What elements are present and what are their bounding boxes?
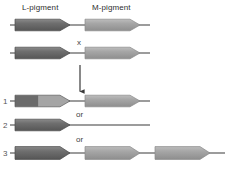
gene-m-pigment-parent1 [85,19,140,31]
gene-crossover-diagram [0,0,234,170]
row-label-1: 1 [3,97,8,106]
header-m-pigment: M-pigment [92,3,131,12]
header-l-pigment: L-pigment [22,3,58,12]
or-separator-1: or [76,110,83,119]
gene-l-pigment-outcome3 [15,147,70,160]
gene-l-pigment-parent2 [15,47,70,59]
gene-m-pigment-second-outcome3 [155,147,210,160]
or-separator-2: or [76,135,83,144]
gene-l-pigment-outcome2 [15,119,70,131]
gene-m-pigment-outcome1 [85,95,140,107]
gene-m-pigment-parent2 [85,47,140,59]
chromosome-outcome-3 [10,147,225,160]
row-label-3: 3 [3,149,8,158]
row-label-2: 2 [3,121,8,130]
gene-m-pigment-first-outcome3 [85,147,140,160]
chromosome-outcome-1 [10,95,150,107]
gene-l-pigment-parent1 [15,19,70,31]
gene-hybrid-l-m-outcome1 [15,95,70,107]
chromosome-outcome-2 [10,119,150,131]
chromosome-parent-2 [10,47,150,59]
chromosome-parent-1 [10,19,150,31]
cross-symbol: x [77,38,81,47]
